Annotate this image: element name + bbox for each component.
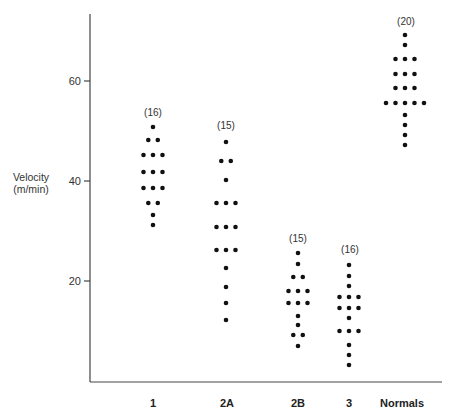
data-point [160,153,165,158]
data-point [296,323,301,328]
data-point [347,263,352,268]
y-tick-label-20: 20 [69,275,81,287]
data-point [141,153,146,158]
data-point [286,289,291,294]
data-point [412,101,417,106]
data-point [160,170,165,175]
data-point [224,201,229,206]
data-point [224,178,229,183]
y-ticks: 20 40 60 [69,75,90,287]
data-point [337,306,342,311]
data-point [151,213,156,218]
data-point [356,295,361,300]
x-category-labels: 1 2A 2B 3 Normals [150,397,424,409]
data-point [347,353,352,358]
data-point [286,301,291,306]
data-point [393,101,398,106]
category-label-2a: 2A [220,397,234,409]
dot-group-3 [337,263,361,368]
data-point [233,201,238,206]
data-point [403,123,408,128]
data-point [403,86,408,91]
data-point [403,143,408,148]
data-point [422,101,427,106]
data-point [296,314,301,319]
category-label-1: 1 [150,397,156,409]
data-point [403,57,408,62]
data-point [356,329,361,334]
data-point [301,275,306,280]
data-point [301,333,306,338]
data-point [146,201,151,206]
dot-group-2b [286,251,310,349]
data-point [160,186,165,191]
data-point [291,275,296,280]
data-point [224,301,229,306]
data-point [393,57,398,62]
data-point [156,138,161,143]
data-point [403,133,408,138]
category-label-3: 3 [346,397,352,409]
data-point [393,86,398,91]
data-point [151,223,156,228]
data-point [412,86,417,91]
dot-group-1 [141,125,165,228]
count-label-1: (16) [144,107,162,118]
y-tick-label-40: 40 [69,175,81,187]
data-point [347,306,352,311]
data-point [347,274,352,279]
count-label-2a: (15) [217,120,235,131]
data-point [224,318,229,323]
dot-group-normals [384,33,427,148]
count-label-normals: (20) [397,16,415,27]
data-point [229,159,234,164]
data-point [347,329,352,334]
data-point [214,248,219,253]
y-axis-title-line2: (m/min) [13,183,49,195]
data-point [151,186,156,191]
data-point [141,170,146,175]
data-point [296,344,301,349]
data-point [233,248,238,253]
y-axis-title-line1: Velocity [13,171,50,183]
data-point [403,101,408,106]
data-point [224,248,229,253]
data-point [347,284,352,289]
data-point [347,363,352,368]
data-point [337,295,342,300]
data-point [291,333,296,338]
data-point [219,159,224,164]
data-point [224,225,229,230]
data-point [146,138,151,143]
category-label-2b: 2B [291,397,305,409]
data-point [224,266,229,271]
count-label-2b: (15) [289,233,307,244]
data-point [296,262,301,267]
data-point [151,153,156,158]
data-point [412,72,417,77]
data-point [224,285,229,290]
axes [90,14,442,382]
data-point [214,201,219,206]
data-point [214,225,219,230]
data-point [141,186,146,191]
y-tick-label-60: 60 [69,75,81,87]
data-point [233,225,238,230]
data-point [403,43,408,48]
count-labels: (16) (15) (15) (16) (20) [144,16,415,255]
data-point [151,170,156,175]
data-point [156,201,161,206]
data-point [337,329,342,334]
category-label-normals: Normals [380,397,424,409]
data-point [403,72,408,77]
data-point [347,316,352,321]
data-point [412,57,417,62]
data-point [296,301,301,306]
data-point [347,343,352,348]
data-point [305,301,310,306]
y-axis-title: Velocity (m/min) [13,171,50,195]
dot-group-2a [214,140,238,323]
data-point [403,113,408,118]
data-point [393,72,398,77]
data-point [224,140,229,145]
